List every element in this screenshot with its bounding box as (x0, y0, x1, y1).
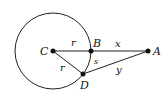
geometry-diagram: C B A D r r x y s (0, 0, 168, 98)
point-c (51, 49, 56, 54)
label-cd-r: r (60, 62, 66, 73)
label-cb-r: r (71, 37, 77, 48)
label-a: A (152, 45, 161, 58)
label-b: B (92, 37, 101, 50)
label-c: C (40, 45, 49, 58)
label-da-y: y (115, 64, 122, 75)
label-ba-x: x (115, 38, 121, 49)
point-d (81, 72, 86, 77)
label-d: D (79, 79, 89, 92)
point-a (146, 49, 151, 54)
segment-cd (53, 51, 83, 74)
label-arc-s: s (94, 57, 98, 66)
